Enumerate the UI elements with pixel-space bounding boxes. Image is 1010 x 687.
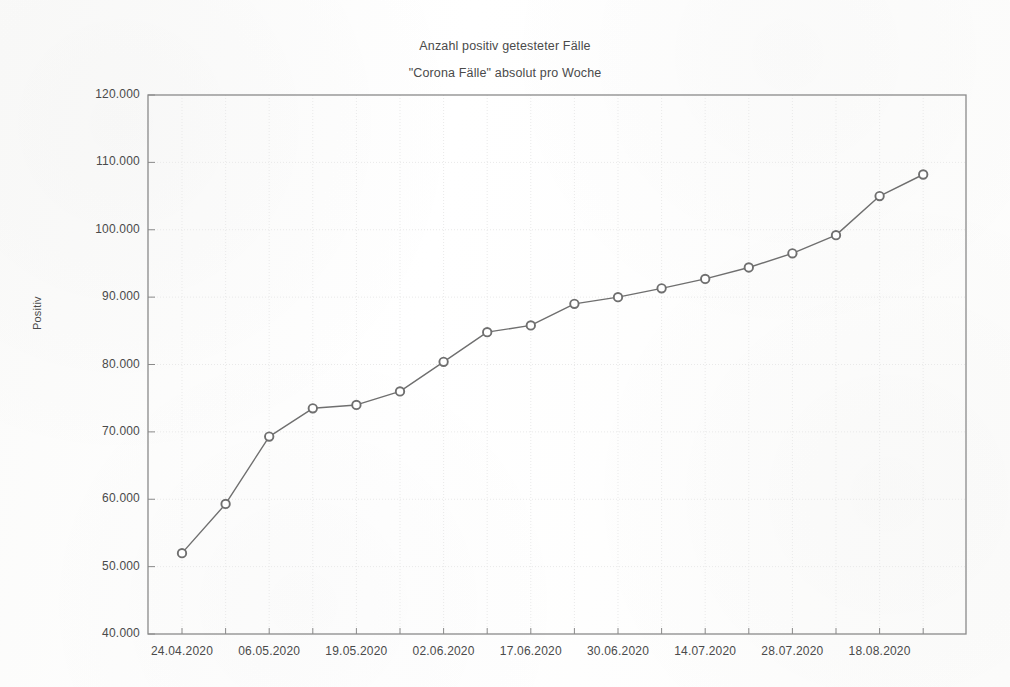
horizontal-gridlines [148,162,966,566]
line-chart: Anzahl positiv getesteter Fälle "Corona … [0,0,1010,687]
x-axis-ticks [182,628,923,634]
plot-area [0,0,1010,687]
data-line [182,175,923,554]
y-axis-ticks [148,95,155,634]
vertical-gridlines [182,95,923,634]
